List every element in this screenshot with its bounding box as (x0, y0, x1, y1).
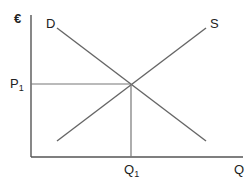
y-axis-label: € (14, 12, 21, 25)
price-equilibrium-label: P1 (10, 77, 24, 93)
quantity-label-main: Q (124, 162, 134, 177)
quantity-equilibrium-label: Q1 (124, 163, 139, 179)
price-label-sub: 1 (19, 83, 24, 93)
supply-label: S (210, 17, 219, 30)
price-label-main: P (10, 76, 19, 91)
x-axis-label: Q (234, 163, 244, 176)
quantity-label-sub: 1 (134, 169, 139, 179)
demand-label: D (46, 17, 55, 30)
